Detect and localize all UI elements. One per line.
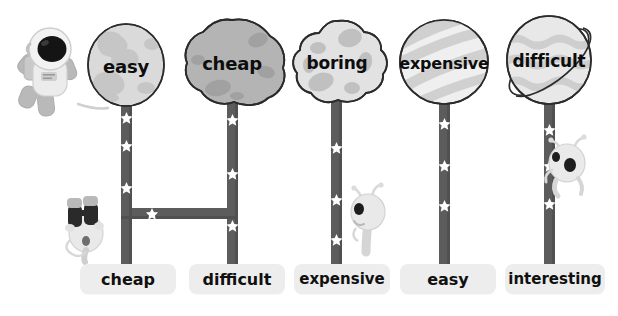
answer-chip-interesting[interactable]: interesting [505,264,605,294]
alien-with-binoculars [65,196,104,262]
alien-peeking-right [351,182,385,252]
answer-chip-expensive[interactable]: expensive [294,264,390,294]
planet-difficult[interactable] [499,16,598,107]
planet-easy[interactable] [88,24,164,106]
planet-expensive[interactable] [390,8,492,113]
answer-chip-difficult[interactable]: difficult [189,264,285,294]
exercise-canvas: easy cheap boring expensive difficult ch… [0,0,618,316]
planet-cheap[interactable] [185,19,284,105]
answer-chip-cheap[interactable]: cheap [80,264,176,294]
poles-group [120,100,555,266]
planet-boring[interactable] [293,21,387,103]
answer-chip-easy[interactable]: easy [400,264,496,294]
